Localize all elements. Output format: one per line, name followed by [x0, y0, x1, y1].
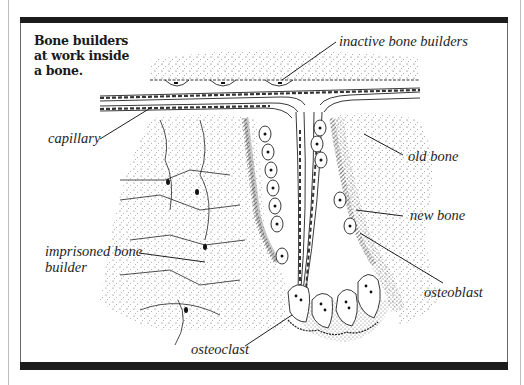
label-new-bone: new bone	[410, 207, 465, 223]
label-osteoblast: osteoblast	[424, 284, 483, 300]
label-capillary: capillary	[48, 130, 100, 146]
top-bone-layer	[150, 50, 420, 86]
label-imprisoned-bone-builder: imprisoned bone builder	[45, 243, 142, 275]
label-imprisoned-line-1: imprisoned bone	[45, 243, 142, 259]
bone-illustration	[0, 0, 524, 385]
osteoclasts	[286, 274, 392, 342]
label-imprisoned-line-2: builder	[45, 259, 142, 275]
label-old-bone: old bone	[408, 148, 458, 164]
label-inactive-bone-builders: inactive bone builders	[339, 33, 468, 49]
label-osteoclast: osteoclast	[191, 341, 249, 357]
left-bone-mass	[100, 115, 288, 345]
